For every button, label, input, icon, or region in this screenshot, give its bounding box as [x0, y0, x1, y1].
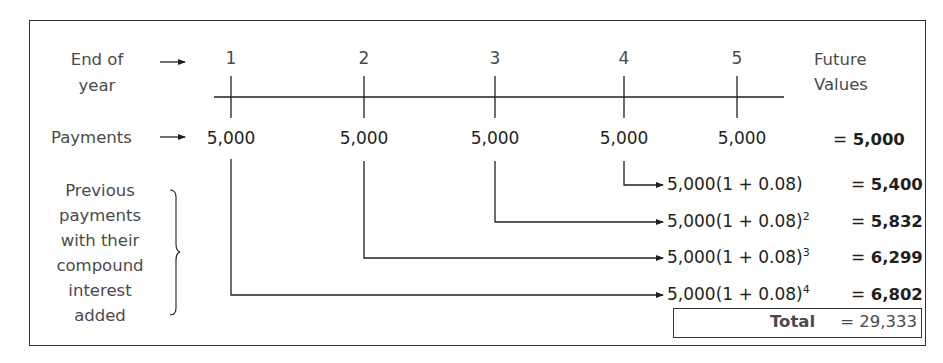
payment-year-3: 5,000 — [471, 128, 520, 148]
formula-row-1: 5,000(1 + 0.08) — [667, 174, 803, 194]
connector-year-3 — [495, 161, 663, 222]
end-of-year-label: End of year — [62, 47, 132, 99]
year-3: 3 — [490, 48, 501, 68]
year-4: 4 — [619, 48, 630, 68]
connector-year-2 — [364, 161, 663, 258]
payment-year-5: 5,000 — [718, 128, 767, 148]
future-values-header: Future Values — [814, 47, 868, 97]
previous-payments-label: Previous payments with their compound in… — [42, 178, 158, 328]
fv-row-3: = 6,299 — [851, 247, 923, 267]
total-value: = 29,333 — [840, 312, 917, 331]
formula-row-3: 5,000(1 + 0.08)3 — [667, 247, 810, 267]
formula-row-4: 5,000(1 + 0.08)4 — [667, 284, 810, 304]
fv-row-1: = 5,400 — [851, 174, 923, 194]
total-box: Total = 29,333 — [673, 308, 922, 338]
fv-row-4: = 6,802 — [851, 284, 923, 304]
total-label: Total — [770, 312, 815, 331]
connector-year-4 — [624, 161, 663, 185]
year-1: 1 — [226, 48, 237, 68]
payment-year-4: 5,000 — [600, 128, 649, 148]
connector-year-1 — [231, 159, 663, 295]
fv-row-2: = 5,832 — [851, 211, 923, 231]
future-value-year-5: = 5,000 — [833, 129, 905, 149]
year-2: 2 — [359, 48, 370, 68]
year-5: 5 — [732, 48, 743, 68]
payment-year-2: 5,000 — [340, 128, 389, 148]
formula-row-2: 5,000(1 + 0.08)2 — [667, 211, 810, 231]
brace-icon — [170, 190, 180, 315]
payment-year-1: 5,000 — [207, 128, 256, 148]
payments-label: Payments — [51, 125, 132, 151]
